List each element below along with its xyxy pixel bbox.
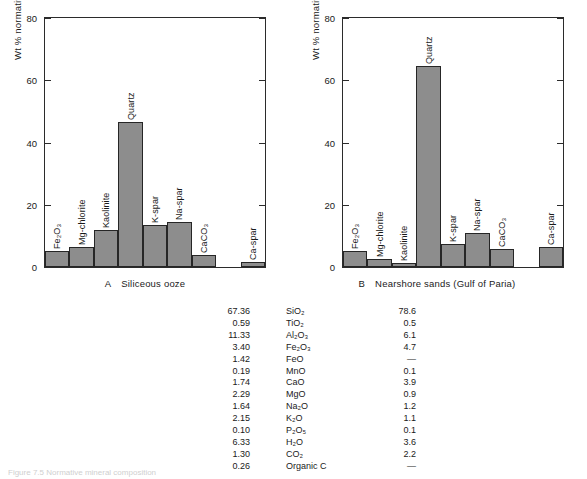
- analysis-oxide-label: FeO: [250, 354, 378, 366]
- analyses-row: 2.29MgO0.9: [186, 389, 416, 401]
- analysis-value-b: —: [378, 354, 416, 366]
- panel-title-b: Nearshore sands (Gulf of Paria): [375, 278, 515, 289]
- bar-b-Quartz: Quartz: [416, 66, 440, 267]
- bar-label-a-CaCO3: CaCO₃: [199, 224, 209, 253]
- bar-a-CaCO3: CaCO₃: [192, 255, 216, 267]
- figure-root: Wt % normative minerals 020406080 Fe₂O₃M…: [0, 0, 587, 479]
- panel-caption-b: BNearshore sands (Gulf of Paria): [292, 278, 582, 289]
- analyses-row: 3.40Fe₂O₃4.7: [186, 342, 416, 354]
- bar-label-b-Mg-chlorite: Mg-chlorite: [375, 211, 385, 257]
- y-tick-label-a-80: 80: [26, 13, 37, 24]
- y-tick-label-a-60: 60: [26, 75, 37, 86]
- analyses-row: 0.19MnO0.1: [186, 366, 416, 378]
- analyses-row: 1.64Na₂O1.2: [186, 401, 416, 413]
- analyses-row: 2.15K₂O1.1: [186, 413, 416, 425]
- bar-label-a-Kaolinite: Kaolinite: [101, 192, 111, 227]
- y-tick-right-b-0: [557, 267, 563, 268]
- y-tick-label-a-0: 0: [32, 262, 37, 273]
- analysis-oxide-label: K₂O: [250, 413, 378, 425]
- analyses-row: 67.36SiO₂78.6: [186, 306, 416, 318]
- y-tick-right-a-0: [259, 267, 265, 268]
- analysis-value-a: 1.30: [186, 449, 250, 461]
- analysis-value-a: 0.19: [186, 366, 250, 378]
- analysis-oxide-label: CaO: [250, 377, 378, 389]
- bar-a-K-spar: K-spar: [143, 225, 167, 267]
- analysis-oxide-label: Al₂O₃: [250, 330, 378, 342]
- bar-label-a-Na-spar: Na-spar: [174, 187, 184, 220]
- analysis-value-b: 1.2: [378, 401, 416, 413]
- analysis-value-b: 0.5: [378, 318, 416, 330]
- analysis-oxide-label: SiO₂: [250, 306, 378, 318]
- analysis-oxide-label: Na₂O: [250, 401, 378, 413]
- bar-group-b: Fe₂O₃Mg-chloriteKaoliniteQuartzK-sparNa-…: [343, 18, 563, 267]
- y-tick-b-0: [343, 267, 349, 268]
- analysis-oxide-label: MgO: [250, 389, 378, 401]
- bar-b-Na-spar: Na-spar: [465, 233, 489, 267]
- y-tick-label-b-60: 60: [324, 75, 335, 86]
- figure-caption: Figure 7.5 Normative mineral composition: [8, 468, 428, 477]
- analyses-row: 11.33Al₂O₃6.1: [186, 330, 416, 342]
- analysis-oxide-label: Fe₂O₃: [250, 342, 378, 354]
- bar-label-a-Ca-spar: Ca-spar: [248, 228, 258, 261]
- bar-a-Fe2O3: Fe₂O₃: [45, 251, 69, 267]
- bar-label-b-Na-spar: Na-spar: [472, 198, 482, 231]
- analysis-value-a: 3.40: [186, 342, 250, 354]
- analysis-value-b: 0.9: [378, 389, 416, 401]
- analyses-row: 1.30CO₂2.2: [186, 449, 416, 461]
- panel-caption-a: ASiliceous ooze: [0, 278, 290, 289]
- analyses-table: 67.36SiO₂78.60.59TiO₂0.511.33Al₂O₃6.13.4…: [186, 306, 416, 473]
- bar-label-b-Ca-spar: Ca-spar: [546, 212, 556, 245]
- bar-a-Kaolinite: Kaolinite: [94, 230, 118, 267]
- y-tick-label-a-20: 20: [26, 199, 37, 210]
- bar-a-Mg-chlorite: Mg-chlorite: [69, 247, 93, 267]
- y-tick-label-b-20: 20: [324, 199, 335, 210]
- analysis-value-b: 0.1: [378, 425, 416, 437]
- bar-label-b-Quartz: Quartz: [424, 37, 434, 65]
- analyses-row: 1.74CaO3.9: [186, 377, 416, 389]
- bar-label-b-Fe2O3: Fe₂O₃: [350, 224, 360, 249]
- bar-label-b-K-spar: K-spar: [448, 215, 458, 242]
- y-axis-label-a: Wt % normative minerals: [12, 0, 23, 60]
- analysis-value-b: 1.1: [378, 413, 416, 425]
- y-tick-label-a-40: 40: [26, 137, 37, 148]
- bar-label-a-Quartz: Quartz: [126, 93, 136, 121]
- analyses-row: 1.42FeO—: [186, 354, 416, 366]
- analyses-row: 0.59TiO₂0.5: [186, 318, 416, 330]
- bar-b-Kaolinite: Kaolinite: [392, 263, 416, 267]
- analysis-value-a: 11.33: [186, 330, 250, 342]
- analysis-value-a: 1.74: [186, 377, 250, 389]
- bar-a-Quartz: Quartz: [118, 122, 142, 267]
- plot-area-a: 020406080 Fe₂O₃Mg-chloriteKaoliniteQuart…: [44, 17, 266, 268]
- analysis-value-a: 67.36: [186, 306, 250, 318]
- y-tick-label-b-80: 80: [324, 13, 335, 24]
- bar-label-a-Mg-chlorite: Mg-chlorite: [77, 199, 87, 245]
- analysis-value-b: 2.2: [378, 449, 416, 461]
- analysis-value-b: 78.6: [378, 306, 416, 318]
- analysis-value-a: 1.42: [186, 354, 250, 366]
- panel-letter-a: A: [105, 278, 112, 289]
- bar-label-b-CaCO3: CaCO₃: [497, 218, 507, 247]
- analyses-row: 0.10P₂O₅0.1: [186, 425, 416, 437]
- bar-b-CaCO3: CaCO₃: [490, 249, 514, 267]
- analyses-row: 6.33H₂O3.6: [186, 437, 416, 449]
- analysis-value-b: 4.7: [378, 342, 416, 354]
- bar-label-b-Kaolinite: Kaolinite: [399, 225, 409, 260]
- analysis-oxide-label: P₂O₅: [250, 425, 378, 437]
- analysis-value-b: 6.1: [378, 330, 416, 342]
- analysis-oxide-label: MnO: [250, 366, 378, 378]
- bar-label-a-K-spar: K-spar: [150, 196, 160, 223]
- bar-b-Mg-chlorite: Mg-chlorite: [367, 259, 391, 267]
- analysis-value-b: 3.9: [378, 377, 416, 389]
- analysis-oxide-label: H₂O: [250, 437, 378, 449]
- analysis-value-a: 0.10: [186, 425, 250, 437]
- bar-b-K-spar: K-spar: [441, 244, 465, 267]
- bar-label-a-Fe2O3: Fe₂O₃: [52, 224, 62, 249]
- y-tick-label-b-40: 40: [324, 137, 335, 148]
- analysis-value-a: 1.64: [186, 401, 250, 413]
- panel-title-a: Siliceous ooze: [121, 278, 185, 289]
- bar-a-Na-spar: Na-spar: [167, 222, 191, 267]
- bar-b-Ca-spar: Ca-spar: [539, 247, 563, 267]
- analysis-oxide-label: CO₂: [250, 449, 378, 461]
- bar-b-Fe2O3: Fe₂O₃: [343, 251, 367, 267]
- bar-a-Ca-spar: Ca-spar: [241, 262, 265, 267]
